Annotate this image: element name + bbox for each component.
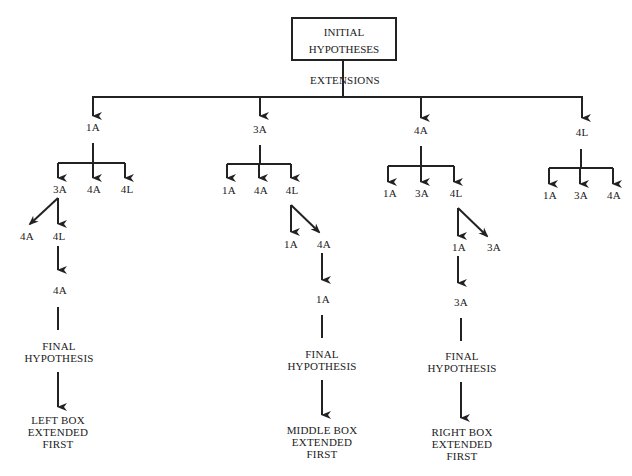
node-4L-1A: 1A	[543, 189, 557, 202]
outcome-right-l3: FIRST	[447, 450, 478, 463]
node-3A-1A: 1A	[222, 184, 236, 197]
node-4L: 4L	[576, 126, 589, 139]
node-4L-4A: 4A	[607, 189, 621, 202]
outcome-middle-l3: FIRST	[307, 448, 338, 461]
node-1A-3A: 3A	[53, 183, 67, 196]
final-hypothesis-left-l2: HYPOTHESIS	[24, 352, 93, 365]
node-3A-chain-1A: 1A	[316, 293, 330, 306]
node-4A-4L-1A: 1A	[452, 241, 466, 254]
node-3A-4A: 4A	[254, 184, 268, 197]
node-4A-3A: 3A	[415, 187, 429, 200]
root-label-line1: INITIAL	[293, 26, 395, 39]
node-3A: 3A	[253, 123, 267, 136]
node-4A-chain-3A: 3A	[454, 296, 468, 309]
node-4L-3A: 3A	[574, 189, 588, 202]
node-4A-4L: 4L	[450, 187, 463, 200]
node-3A-4L-1A: 1A	[284, 238, 298, 251]
node-3A-4L-4A: 4A	[317, 238, 331, 251]
root-label-line2: HYPOTHESES	[293, 43, 395, 56]
node-1A-4L: 4L	[121, 183, 134, 196]
outcome-left-l3: FIRST	[43, 438, 74, 451]
node-1A-4A: 4A	[87, 183, 101, 196]
node-4A-4L-3A: 3A	[487, 241, 501, 254]
extensions-label: EXTENSIONS	[310, 74, 380, 87]
node-4A-1A: 1A	[383, 187, 397, 200]
final-hypothesis-right-l2: HYPOTHESIS	[427, 362, 496, 375]
node-1A-3A-4L: 4L	[53, 230, 66, 243]
tree-connectors	[0, 0, 632, 476]
final-hypothesis-middle-l2: HYPOTHESIS	[287, 360, 356, 373]
node-1A-chain-4A: 4A	[53, 284, 67, 297]
node-1A-3A-4A: 4A	[20, 230, 34, 243]
node-4A: 4A	[414, 124, 428, 137]
initial-hypotheses-box: INITIAL HYPOTHESES	[291, 17, 397, 61]
node-3A-4L: 4L	[286, 184, 299, 197]
node-1A: 1A	[86, 121, 100, 134]
